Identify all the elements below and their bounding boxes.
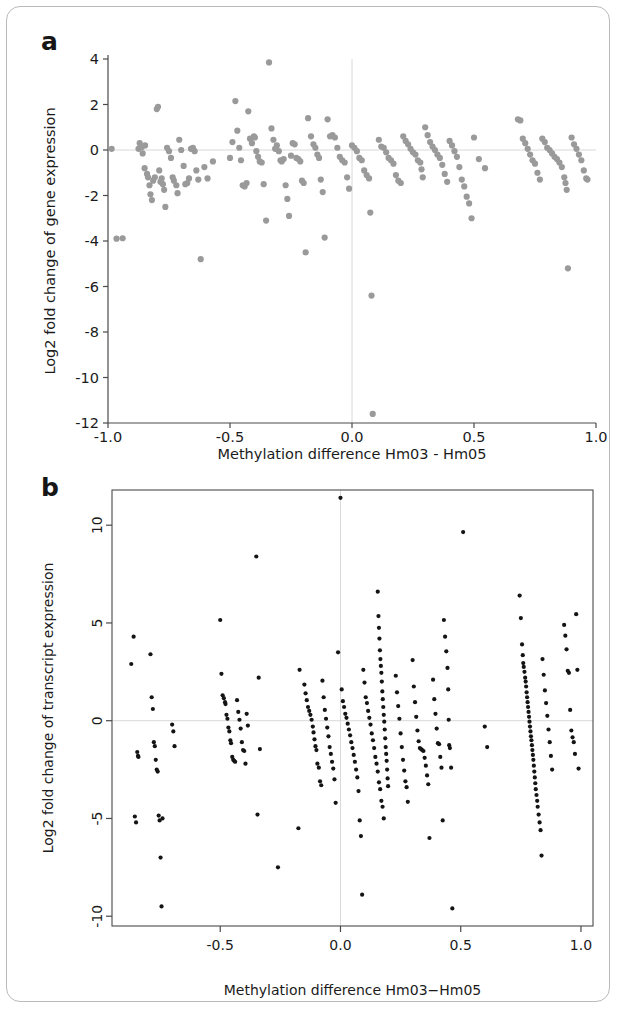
data-point	[449, 142, 455, 148]
data-point	[373, 755, 377, 759]
data-point	[380, 805, 384, 809]
panel-b: b 1050-5-10-0.50.00.51.0Methylation diff…	[7, 467, 611, 1003]
data-point	[186, 175, 192, 181]
data-point	[527, 715, 531, 719]
data-point	[318, 176, 324, 182]
data-point	[522, 140, 528, 146]
y-tick-label: -5	[89, 811, 105, 825]
data-point	[330, 760, 334, 764]
data-point	[303, 249, 309, 255]
data-point	[562, 180, 568, 186]
data-point	[451, 148, 457, 154]
data-point	[158, 855, 162, 859]
data-point	[456, 164, 462, 170]
data-point	[305, 115, 311, 121]
data-point	[423, 756, 427, 760]
data-point	[572, 740, 576, 744]
data-point	[151, 707, 155, 711]
data-point	[521, 661, 525, 665]
data-point	[426, 782, 430, 786]
data-point	[308, 133, 314, 139]
data-point	[344, 716, 348, 720]
data-point	[233, 760, 237, 764]
data-point	[401, 758, 405, 762]
data-point	[442, 618, 446, 622]
data-point	[136, 755, 140, 759]
x-axis-title: Methylation difference Hm03 - Hm05	[218, 446, 487, 462]
data-point	[229, 741, 233, 745]
data-point	[402, 768, 406, 772]
data-point	[367, 716, 371, 720]
data-point	[142, 165, 148, 171]
data-point	[415, 728, 419, 732]
data-point	[284, 196, 290, 202]
data-point	[578, 157, 584, 163]
data-point	[322, 234, 328, 240]
data-point	[322, 695, 326, 699]
data-point	[523, 676, 527, 680]
data-point	[134, 820, 138, 824]
data-point	[350, 746, 354, 750]
data-point	[235, 698, 239, 702]
data-point	[239, 726, 243, 730]
data-point	[459, 176, 465, 182]
data-point	[376, 590, 380, 594]
data-point	[348, 733, 352, 737]
data-point	[342, 705, 346, 709]
data-point	[257, 676, 261, 680]
data-point	[156, 167, 162, 173]
data-point	[442, 171, 448, 177]
x-tick-label: 1.0	[584, 429, 607, 445]
data-point	[156, 769, 160, 773]
data-point	[258, 747, 262, 751]
data-point	[544, 701, 548, 705]
data-point	[380, 680, 384, 684]
data-point	[359, 834, 363, 838]
data-point	[427, 836, 431, 840]
data-point	[349, 740, 353, 744]
y-tick-label: 5	[89, 618, 105, 627]
data-point	[539, 854, 543, 858]
y-tick-label: 10	[89, 516, 105, 534]
data-point	[377, 626, 381, 630]
data-point	[162, 204, 168, 210]
data-point	[352, 753, 356, 757]
data-point	[245, 712, 249, 716]
data-point	[564, 647, 568, 651]
panel-a-plot: 420-2-4-6-8-10-12-1.0-0.50.00.51.0Methyl…	[7, 7, 611, 467]
data-point	[418, 166, 424, 172]
data-point	[354, 148, 360, 154]
data-point	[576, 151, 582, 157]
data-point	[382, 816, 386, 820]
y-tick-label: -2	[85, 188, 99, 204]
data-point	[234, 128, 240, 134]
panel-b-plot: 1050-5-10-0.50.00.51.0Methylation differ…	[7, 467, 611, 1003]
data-point	[525, 146, 531, 152]
data-point	[533, 775, 537, 779]
data-point	[276, 148, 282, 154]
data-point	[148, 652, 152, 656]
x-tick-label: -0.5	[216, 429, 244, 445]
data-point	[347, 727, 351, 731]
data-point	[550, 767, 554, 771]
y-tick-label: -10	[75, 370, 99, 386]
data-point	[324, 717, 328, 721]
data-point	[160, 181, 166, 187]
data-point	[546, 727, 550, 731]
data-point	[441, 818, 445, 822]
data-point	[152, 174, 158, 180]
data-point	[222, 696, 226, 700]
data-point	[198, 256, 204, 262]
data-point	[536, 805, 540, 809]
data-point	[380, 689, 384, 693]
data-point	[302, 682, 306, 686]
data-point	[161, 187, 167, 193]
data-point	[444, 649, 448, 653]
data-point	[482, 165, 488, 171]
data-point	[383, 149, 389, 155]
data-point	[384, 752, 388, 756]
data-point	[384, 745, 388, 749]
data-point	[341, 699, 345, 703]
data-point	[534, 787, 538, 791]
data-point	[311, 730, 315, 734]
